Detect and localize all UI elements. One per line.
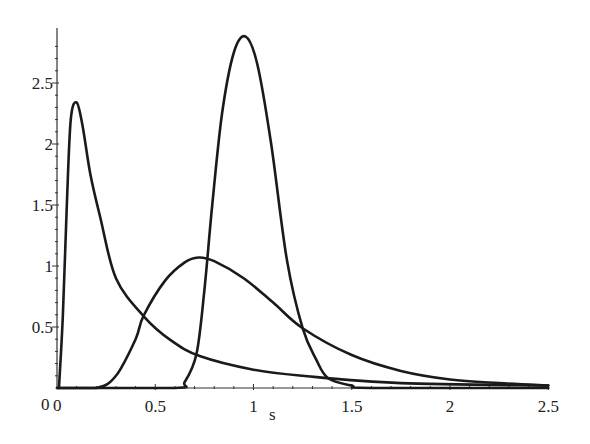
- origin-y-label: 0: [41, 395, 50, 414]
- y-tick-label: 2.5: [32, 74, 53, 93]
- x-axis-label: s: [269, 405, 276, 424]
- series-curve-2: [57, 257, 548, 388]
- series-curve-3: [57, 36, 548, 388]
- curves: [57, 36, 548, 388]
- x-tick-label: 1: [249, 397, 258, 416]
- y-tick-label: 1.5: [32, 196, 53, 215]
- origin-x-label: 0: [53, 396, 62, 415]
- y-tick-label: 0.5: [32, 318, 53, 337]
- x-tick-label: 1.5: [341, 397, 362, 416]
- x-tick-label: 2: [446, 397, 455, 416]
- y-axis: 0.511.522.5: [32, 28, 59, 388]
- x-tick-label: 2.5: [538, 397, 559, 416]
- x-tick-label: 0.5: [145, 397, 166, 416]
- line-chart: 0.511.522.5 0.511.522.5 0 0 s: [0, 0, 590, 444]
- y-tick-label: 1: [45, 257, 54, 276]
- y-tick-label: 2: [45, 135, 54, 154]
